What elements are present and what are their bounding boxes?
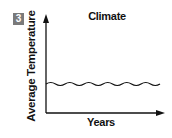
y-axis	[43, 14, 49, 113]
temperature-line	[46, 83, 160, 86]
y-axis-arrow-icon	[43, 14, 49, 23]
x-axis-arrow-icon	[156, 110, 165, 116]
chart-plot	[0, 0, 172, 138]
x-axis	[46, 110, 165, 116]
